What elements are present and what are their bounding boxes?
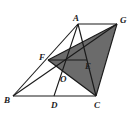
label-A: A — [72, 13, 79, 23]
geometry-diagram: AGFEOBDC — [0, 0, 137, 113]
label-B: B — [3, 95, 10, 105]
label-O: O — [60, 74, 67, 84]
label-D: D — [50, 100, 58, 110]
label-C: C — [94, 100, 101, 110]
label-G: G — [120, 15, 127, 25]
label-F: F — [38, 52, 45, 62]
label-E: E — [84, 61, 91, 71]
